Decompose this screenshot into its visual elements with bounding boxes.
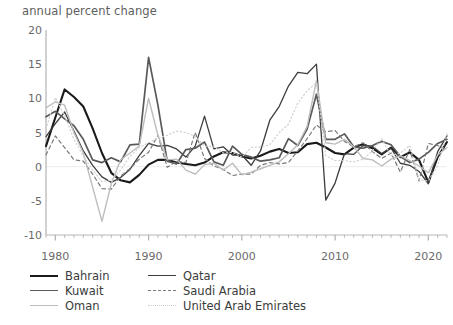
legend-swatch-united_arab_emirates: [148, 305, 176, 306]
chart-legend: BahrainQatarKuwaitSaudi ArabiaOmanUnited…: [30, 268, 306, 313]
x-axis-tick-labels: 19801990200020102020: [0, 250, 453, 270]
y-axis-unit-label: annual percent change: [22, 4, 157, 18]
legend-swatch-saudi_arabia: [148, 290, 176, 291]
legend-swatch-kuwait: [30, 290, 58, 291]
chart-figure: annual percent change 20151050-5-10 1980…: [0, 0, 453, 325]
legend-swatch-oman: [30, 305, 58, 306]
x-axis-tick-label: 2000: [228, 250, 256, 263]
legend-label-united_arab_emirates: United Arab Emirates: [183, 299, 306, 313]
x-axis-tick-label: 1990: [135, 250, 163, 263]
legend-item-bahrain[interactable]: Bahrain: [30, 269, 142, 283]
line-chart-plot-area: [0, 18, 453, 250]
legend-item-united_arab_emirates[interactable]: United Arab Emirates: [148, 299, 306, 313]
chart-footnote: [22, 316, 442, 325]
legend-item-qatar[interactable]: Qatar: [148, 269, 306, 283]
series-line-bahrain: [46, 89, 447, 182]
legend-item-saudi_arabia[interactable]: Saudi Arabia: [148, 284, 306, 298]
legend-label-bahrain: Bahrain: [65, 269, 109, 283]
x-axis-tick-label: 2020: [414, 250, 442, 263]
x-axis-tick-label: 1980: [41, 250, 69, 263]
x-axis-tick-label: 2010: [321, 250, 349, 263]
legend-item-oman[interactable]: Oman: [30, 299, 142, 313]
legend-item-kuwait[interactable]: Kuwait: [30, 284, 142, 298]
legend-label-qatar: Qatar: [183, 269, 215, 283]
legend-label-kuwait: Kuwait: [65, 284, 103, 298]
legend-swatch-bahrain: [30, 275, 58, 277]
legend-label-oman: Oman: [65, 299, 100, 313]
legend-label-saudi_arabia: Saudi Arabia: [183, 284, 256, 298]
legend-swatch-qatar: [148, 275, 176, 276]
series-line-qatar: [46, 64, 447, 200]
